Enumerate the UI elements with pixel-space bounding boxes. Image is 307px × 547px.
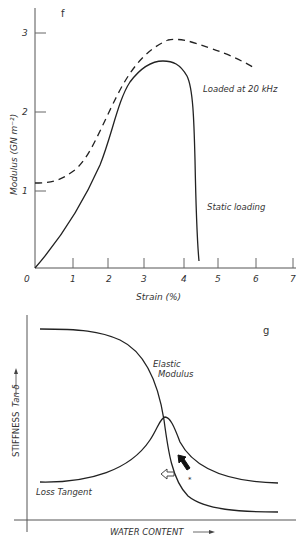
open-arrow-left-icon (161, 469, 174, 479)
chart-g: g STIFFNESS Tan δ WATER CONTENT Elastic … (11, 315, 296, 537)
x-tick-label: 3 (141, 274, 147, 284)
y-arrow-icon (14, 368, 18, 374)
label-loss-tangent: Loss Tangent (36, 487, 92, 497)
y-axis-label-stiffness: STIFFNESS (11, 412, 21, 457)
panel-label-g: g (263, 325, 269, 336)
figure: f 3 2 1 0 1 2 3 4 5 6 7 Strain (%) Modul (0, 0, 307, 547)
label-modulus: Modulus (158, 369, 194, 379)
y-axis-label-f: Modulus (GN m⁻²) (9, 114, 19, 195)
label-elastic: Elastic (153, 359, 181, 369)
solid-curve-static (35, 61, 199, 268)
asterisk-marker: * (188, 476, 192, 484)
panel-label-f: f (61, 8, 65, 19)
label-static-loading: Static loading (207, 202, 266, 212)
x-tick-label: 6 (253, 274, 259, 284)
loss-tangent-curve (40, 417, 278, 483)
x-tick-label: 4 (181, 274, 187, 284)
chart-f: f 3 2 1 0 1 2 3 4 5 6 7 Strain (%) Modul (9, 8, 296, 302)
elastic-modulus-curve (40, 329, 278, 512)
y-tick-label: 3 (22, 28, 28, 38)
filled-arrow-up-left-icon (178, 455, 190, 470)
x-tick-label: 2 (106, 274, 112, 284)
y-tick-label: 1 (22, 186, 28, 196)
dashed-curve-20khz (35, 39, 256, 183)
x-tick-label: 0 (24, 274, 30, 284)
x-tick-label: 7 (290, 274, 296, 284)
x-ticks-f (73, 258, 293, 268)
x-tick-label: 1 (70, 274, 76, 284)
x-tick-label: 5 (215, 274, 221, 284)
x-axis-label-f: Strain (%) (136, 292, 181, 302)
x-arrow-icon (209, 530, 215, 534)
x-axis-label-g: WATER CONTENT (110, 527, 184, 537)
y-tick-label: 2 (22, 107, 28, 117)
label-loaded-20khz: Loaded at 20 kHz (203, 84, 278, 94)
